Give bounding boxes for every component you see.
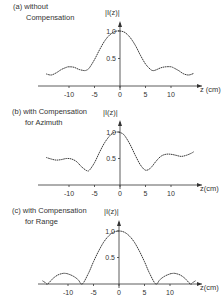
- panel-a-title-line2: Compensation: [26, 13, 74, 22]
- x-tick-label: 10: [167, 91, 175, 98]
- panel-a-y-axis-label: |I(z)|: [105, 8, 120, 17]
- panel-c-y-axis-label: |I(z)|: [104, 207, 119, 216]
- x-tick-label: -10: [64, 91, 74, 98]
- x-tick-label: 5: [144, 91, 148, 98]
- panel-a: (a) without Compensation |I(z)| z (cm) -…: [13, 2, 221, 98]
- x-tick-label: 5: [143, 289, 147, 296]
- panel-b-x-axis-label: z(cm): [200, 184, 219, 193]
- panel-b-y-axis-label: |I(z)|: [103, 108, 118, 117]
- x-tick-label: -5: [91, 190, 97, 197]
- x-tick-label: 0: [117, 289, 121, 296]
- x-tick-label: 10: [166, 289, 174, 296]
- panel-c-ticks: -10-505100.51.0: [63, 228, 174, 297]
- panel-a-ticks: -10-505100.51.0: [64, 28, 175, 99]
- panel-b: (b) with Compensation for Azimuth |I(z)|…: [12, 107, 219, 197]
- x-tick-label: 10: [167, 190, 175, 197]
- x-tick-label: -10: [63, 289, 73, 296]
- x-tick-label: 0: [118, 91, 122, 98]
- panel-b-y-axis-arrow-icon: [118, 120, 122, 126]
- panel-a-title-line1: (a) without: [13, 2, 49, 11]
- x-tick-label: 5: [144, 190, 148, 197]
- panel-c-y-axis-arrow-icon: [117, 220, 121, 226]
- panel-b-title-line1: (b) with Compensation: [12, 107, 87, 116]
- panel-c: (c) with Compensation for Range |I(z)| z…: [12, 206, 219, 296]
- panel-b-title-line2: for Azimuth: [25, 118, 63, 127]
- x-tick-label: -10: [64, 190, 74, 197]
- y-tick-label: 1.0: [106, 28, 116, 35]
- panel-c-title-line2: for Range: [25, 217, 58, 226]
- figure-three-panel-plots: (a) without Compensation |I(z)| z (cm) -…: [0, 0, 224, 298]
- y-tick-label: 0.5: [106, 55, 116, 62]
- panel-b-ticks: -10-505100.51.0: [64, 129, 175, 198]
- panel-a-y-axis-arrow-icon: [118, 21, 122, 27]
- panel-c-x-axis-label: z(cm): [200, 283, 219, 292]
- x-tick-label: -5: [91, 91, 97, 98]
- y-tick-label: 0.5: [105, 254, 115, 261]
- x-tick-label: 0: [118, 190, 122, 197]
- x-tick-label: -5: [90, 289, 96, 296]
- y-tick-label: 1.0: [105, 228, 115, 235]
- panel-a-x-axis-label: z (cm): [200, 85, 221, 94]
- y-tick-label: 0.5: [106, 155, 116, 162]
- panel-c-title-line1: (c) with Compensation: [12, 206, 87, 215]
